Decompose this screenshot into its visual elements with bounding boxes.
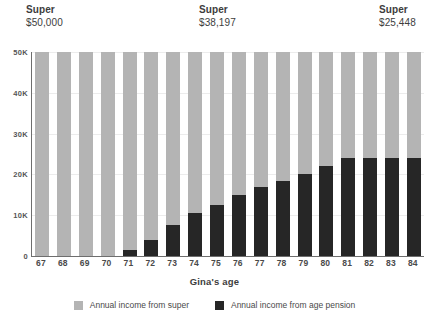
y-axis-tick: 20K	[13, 170, 28, 179]
plot-area	[31, 52, 424, 257]
bar-segment-super	[232, 52, 246, 195]
x-axis-tick: 70	[100, 258, 114, 274]
bar-segment-pension	[341, 158, 355, 256]
y-axis-tick: 0	[24, 252, 28, 261]
y-axis-tick: 40K	[13, 88, 28, 97]
bar-stack[interactable]	[407, 52, 421, 256]
x-axis-tick: 81	[340, 258, 354, 274]
bar-stack[interactable]	[188, 52, 202, 256]
legend-swatch	[215, 301, 224, 310]
annotation-super-mid: Super $38,197	[199, 4, 236, 29]
x-axis-tick: 79	[297, 258, 311, 274]
bar-segment-super	[319, 52, 333, 166]
bar-stack[interactable]	[57, 52, 71, 256]
x-axis-labels: 676869707172737475767778798081828384	[31, 258, 423, 274]
bar-segment-pension	[407, 158, 421, 256]
annotation-title: Super	[199, 4, 236, 16]
bar-stack[interactable]	[341, 52, 355, 256]
x-axis-tick: 84	[406, 258, 420, 274]
x-axis-tick: 72	[143, 258, 157, 274]
bar-segment-super	[79, 52, 93, 256]
y-axis-tick: 30K	[13, 129, 28, 138]
bar-stack[interactable]	[363, 52, 377, 256]
legend-swatch	[74, 301, 83, 310]
bar-stack[interactable]	[166, 52, 180, 256]
bar-stack[interactable]	[123, 52, 137, 256]
x-axis-tick: 76	[231, 258, 245, 274]
x-axis-tick: 69	[78, 258, 92, 274]
x-axis-tick: 83	[384, 258, 398, 274]
x-axis-tick: 75	[209, 258, 223, 274]
bar-segment-super	[407, 52, 421, 158]
x-axis-tick: 71	[122, 258, 136, 274]
bar-segment-super	[144, 52, 158, 240]
bar-segment-pension	[385, 158, 399, 256]
bar-stack[interactable]	[319, 52, 333, 256]
bar-segment-pension	[123, 250, 137, 256]
annotation-title: Super	[379, 4, 416, 16]
legend-item[interactable]: Annual income from super	[74, 300, 189, 310]
bar-segment-super	[57, 52, 71, 256]
bar-stack[interactable]	[254, 52, 268, 256]
x-axis-tick: 68	[56, 258, 70, 274]
x-axis-tick: 82	[362, 258, 376, 274]
bar-segment-pension	[254, 187, 268, 256]
bar-segment-pension	[232, 195, 246, 256]
bar-segment-pension	[144, 240, 158, 256]
annotation-title: Super	[26, 4, 63, 16]
y-axis: 010K20K30K40K50K	[0, 42, 30, 274]
bar-segment-pension	[166, 225, 180, 256]
bar-stack[interactable]	[35, 52, 49, 256]
x-axis-tick: 73	[165, 258, 179, 274]
annotation-value: $25,448	[379, 16, 416, 29]
bar-stack[interactable]	[276, 52, 290, 256]
x-axis-tick: 77	[253, 258, 267, 274]
bar-segment-super	[363, 52, 377, 158]
bar-segment-super	[210, 52, 224, 205]
x-axis-tick: 67	[34, 258, 48, 274]
x-axis-title: Gina's age	[0, 276, 429, 287]
bar-segment-super	[276, 52, 290, 181]
x-axis-tick: 78	[275, 258, 289, 274]
bar-segment-super	[298, 52, 312, 174]
x-axis-tick: 74	[187, 258, 201, 274]
bar-stack[interactable]	[385, 52, 399, 256]
stacked-bar-chart: Super $50,000 Super $38,197 Super $25,44…	[0, 0, 429, 331]
bar-segment-super	[123, 52, 137, 250]
bar-stack[interactable]	[144, 52, 158, 256]
annotation-value: $38,197	[199, 16, 236, 29]
bar-segment-pension	[363, 158, 377, 256]
bar-stack[interactable]	[79, 52, 93, 256]
y-axis-tick: 50K	[13, 48, 28, 57]
annotation-super-start: Super $50,000	[26, 4, 63, 29]
bar-segment-pension	[276, 181, 290, 256]
bar-segment-pension	[188, 213, 202, 256]
bar-group	[32, 52, 424, 256]
bar-stack[interactable]	[298, 52, 312, 256]
legend-label: Annual income from super	[90, 300, 189, 310]
chart-annotations: Super $50,000 Super $38,197 Super $25,44…	[0, 0, 429, 42]
bar-segment-pension	[210, 205, 224, 256]
annotation-super-end: Super $25,448	[379, 4, 416, 29]
plot-wrapper: 010K20K30K40K50K 67686970717273747576777…	[0, 42, 429, 274]
bar-segment-super	[385, 52, 399, 158]
bar-segment-super	[101, 52, 115, 256]
bar-segment-pension	[319, 166, 333, 256]
legend-item[interactable]: Annual income from age pension	[215, 300, 355, 310]
annotation-value: $50,000	[26, 16, 63, 29]
bar-stack[interactable]	[232, 52, 246, 256]
bar-segment-super	[341, 52, 355, 158]
legend-label: Annual income from age pension	[231, 300, 355, 310]
bar-segment-super	[166, 52, 180, 225]
chart-legend: Annual income from superAnnual income fr…	[0, 300, 429, 310]
bar-stack[interactable]	[101, 52, 115, 256]
bar-segment-pension	[298, 174, 312, 256]
bar-stack[interactable]	[210, 52, 224, 256]
y-axis-tick: 10K	[13, 211, 28, 220]
bar-segment-super	[188, 52, 202, 213]
bar-segment-super	[35, 52, 49, 256]
x-axis-tick: 80	[318, 258, 332, 274]
bar-segment-super	[254, 52, 268, 187]
